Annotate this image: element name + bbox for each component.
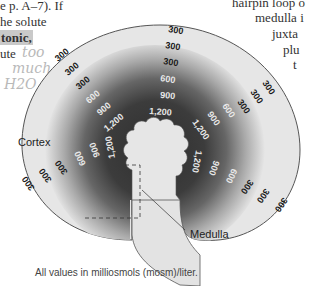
kidney-diagram: Cortex Medulla 300 300 300 600 900 1,200… bbox=[0, 0, 309, 286]
osm-label: 900 bbox=[160, 90, 176, 101]
medulla-label: Medulla bbox=[190, 228, 229, 240]
osm-label: 600 bbox=[160, 73, 176, 85]
cortex-label: Cortex bbox=[18, 136, 51, 148]
units-caption: All values in milliosmols (mosm)/liter. bbox=[35, 267, 198, 278]
osm-label: 300 bbox=[168, 24, 184, 36]
osm-label: 300 bbox=[163, 56, 179, 68]
osm-label: 300 bbox=[165, 40, 181, 52]
osm-label: 1,200 bbox=[149, 106, 172, 118]
